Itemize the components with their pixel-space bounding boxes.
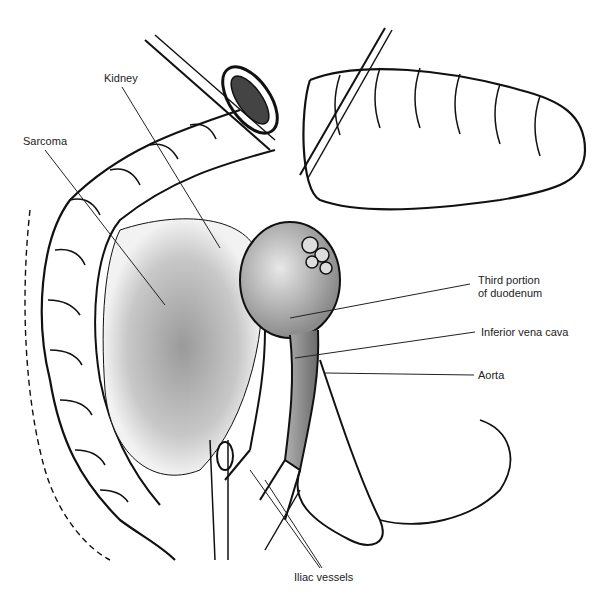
label-aorta: Aorta <box>478 369 504 382</box>
label-duodenum-line1: Third portion <box>478 274 542 287</box>
label-iliac-vessels: Iliac vessels <box>294 571 353 584</box>
label-duodenum: Third portion of duodenum <box>478 274 542 300</box>
label-inferior-vena-cava: Inferior vena cava <box>481 326 568 339</box>
label-sarcoma: Sarcoma <box>23 135 67 148</box>
label-kidney: Kidney <box>104 72 138 85</box>
label-duodenum-line2: of duodenum <box>478 287 542 300</box>
anatomical-illustration: Kidney Sarcoma Third portion of duodenum… <box>0 0 605 608</box>
illustration-drawing <box>0 0 605 608</box>
